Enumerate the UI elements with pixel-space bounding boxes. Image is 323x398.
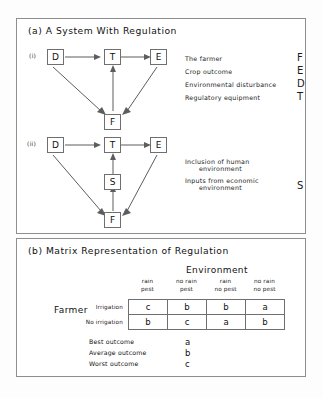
matrix-cell: a: [246, 300, 285, 315]
node-s: S: [104, 174, 121, 190]
panel-b-matrix-representation: (b) Matrix Representation of Regulation …: [16, 238, 306, 377]
matrix-cell: c: [129, 300, 168, 315]
legend-label-line1: Inclusion of human: [185, 158, 249, 165]
legend-label: Inputs from economic environment: [185, 177, 259, 191]
diagram-ii: (ii) D T: [17, 19, 305, 233]
payoff-matrix: c b b a b c a b: [128, 299, 285, 330]
column-header-line2: no pest: [253, 286, 275, 292]
node-t: T: [104, 137, 121, 153]
column-header: rain pest: [128, 278, 167, 293]
diagram-ii-edges: [17, 19, 307, 235]
matrix-cell: c: [168, 315, 207, 330]
row-header: Irrigation: [73, 299, 127, 314]
figure-root: (a) A System With Regulation (i): [0, 0, 323, 398]
matrix-cell: b: [207, 300, 246, 315]
column-header-line1: no rain: [254, 278, 275, 284]
panel-b-title: (b) Matrix Representation of Regulation: [28, 245, 229, 256]
legend-label: Inclusion of human environment: [185, 158, 249, 172]
node-e: E: [150, 137, 167, 153]
legend-label-line2: environment: [185, 184, 259, 191]
legend-label-line2: environment: [185, 165, 249, 172]
column-header-line2: pest: [180, 286, 193, 292]
column-header: rain no pest: [206, 278, 245, 293]
column-header-line1: rain: [142, 278, 154, 284]
legend-label-line1: Inputs from economic: [185, 177, 259, 184]
node-d: D: [47, 137, 64, 153]
matrix-cell: b: [246, 315, 285, 330]
matrix-cell: a: [207, 315, 246, 330]
column-header-line1: no rain: [176, 278, 197, 284]
matrix-cell: b: [129, 315, 168, 330]
matrix-column-headers: rain pest no rain pest rain no pest no r…: [128, 278, 284, 293]
outcome-key-symbol: c: [185, 357, 190, 372]
column-header: no rain pest: [167, 278, 206, 293]
outcome-key-label: Best outcome: [89, 337, 134, 348]
column-header-line2: no pest: [214, 286, 236, 292]
outcome-key-label: Average outcome: [89, 348, 147, 359]
panel-a-system-with-regulation: (a) A System With Regulation (i): [16, 18, 306, 234]
legend-symbol: S: [297, 180, 304, 192]
table-row: b c a b: [129, 315, 285, 330]
matrix-cell: b: [168, 300, 207, 315]
outcome-key-label: Worst outcome: [89, 359, 138, 370]
column-header: no rain no pest: [245, 278, 284, 293]
environment-heading: Environment: [186, 265, 248, 275]
node-f: F: [104, 212, 121, 228]
matrix-row-headers: Irrigation No irrigation: [73, 299, 127, 329]
column-header-line1: rain: [220, 278, 232, 284]
column-header-line2: pest: [141, 286, 154, 292]
row-header: No irrigation: [73, 314, 127, 329]
table-row: c b b a: [129, 300, 285, 315]
